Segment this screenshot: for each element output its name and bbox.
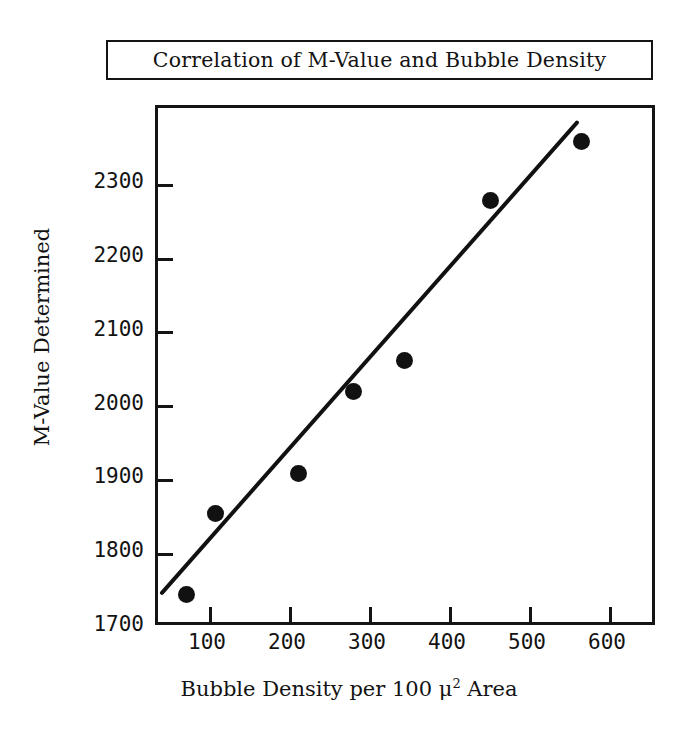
micro-symbol: μ bbox=[439, 677, 453, 701]
y-axis-tick bbox=[158, 184, 173, 187]
data-point bbox=[207, 505, 224, 522]
x-axis-tick-label: 600 bbox=[588, 632, 626, 653]
y-axis-tick-label: 2200 bbox=[93, 245, 144, 266]
chart-title-box: Correlation of M-Value and Bubble Densit… bbox=[106, 40, 653, 80]
y-axis-tick-label: 1700 bbox=[93, 614, 144, 635]
x-axis-tick-label: 200 bbox=[268, 632, 306, 653]
y-axis-tick-label: 2000 bbox=[93, 393, 144, 414]
x-axis-title: Bubble Density per 100 μ2 Area bbox=[0, 676, 698, 701]
y-axis-tick-label: 1800 bbox=[93, 540, 144, 561]
y-axis-tick bbox=[158, 258, 173, 261]
y-axis-tick-label: 1900 bbox=[93, 466, 144, 487]
x-axis-tick bbox=[449, 607, 452, 622]
x-axis-tick bbox=[209, 607, 212, 622]
plot-area bbox=[158, 108, 652, 622]
x-axis-tick-labels: 100200300400500600 bbox=[155, 632, 655, 658]
data-point bbox=[178, 586, 195, 603]
x-axis-tick-label: 500 bbox=[508, 632, 546, 653]
y-axis-tick-labels: 1700180019002000210022002300 bbox=[0, 105, 144, 625]
x-axis-tick bbox=[609, 607, 612, 622]
x-axis-tick bbox=[289, 607, 292, 622]
y-axis-tick bbox=[158, 405, 173, 408]
y-axis-tick-label: 2100 bbox=[93, 319, 144, 340]
x-axis-tick bbox=[369, 607, 372, 622]
x-axis-tick-label: 400 bbox=[428, 632, 466, 653]
data-point bbox=[573, 133, 590, 150]
x-axis-tick-label: 300 bbox=[348, 632, 386, 653]
x-axis-title-exponent: 2 bbox=[452, 676, 460, 691]
plot-frame bbox=[155, 105, 655, 625]
x-axis-title-suffix: Area bbox=[461, 677, 518, 701]
y-axis-tick bbox=[158, 331, 173, 334]
y-axis-tick bbox=[158, 553, 173, 556]
data-point bbox=[396, 352, 413, 369]
chart-figure: Correlation of M-Value and Bubble Densit… bbox=[0, 0, 698, 738]
chart-title: Correlation of M-Value and Bubble Densit… bbox=[153, 48, 606, 72]
data-point bbox=[345, 383, 362, 400]
data-point bbox=[482, 192, 499, 209]
data-point bbox=[290, 465, 307, 482]
x-axis-tick-label: 100 bbox=[188, 632, 226, 653]
y-axis-tick bbox=[158, 479, 173, 482]
x-axis-title-prefix: Bubble Density per 100 bbox=[180, 677, 438, 701]
y-axis-tick-label: 2300 bbox=[93, 171, 144, 192]
x-axis-tick bbox=[529, 607, 532, 622]
